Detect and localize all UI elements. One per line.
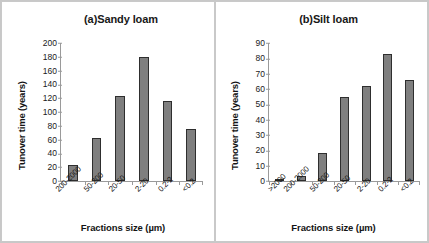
- y-tick-label: 70: [239, 69, 265, 78]
- bar-cell: [85, 43, 109, 181]
- panel-b-bars: [269, 43, 420, 181]
- y-tick-label: 10: [239, 161, 265, 170]
- bar-cell: [269, 43, 291, 181]
- x-label-cell: 0.2-2: [156, 181, 180, 215]
- y-tick-label: 0: [239, 177, 265, 186]
- panel-a-y-axis-title: Tunover time (years): [16, 81, 27, 170]
- chart-panel-b: (b)Silt loam Tunover time (years) 010203…: [215, 1, 428, 242]
- panel-a-x-axis-title: Fractions size (µm): [2, 222, 214, 233]
- bar-cell: [355, 43, 377, 181]
- panel-a-bars: [61, 43, 203, 181]
- y-tick-label: 140: [31, 80, 57, 89]
- bar[interactable]: [340, 97, 349, 181]
- x-label-cell: 2-20: [355, 181, 377, 215]
- bar[interactable]: [383, 54, 392, 181]
- x-label-cell: <0.2: [398, 181, 420, 215]
- panel-b-x-axis-title: Fractions size (µm): [216, 222, 427, 233]
- bar[interactable]: [405, 80, 414, 181]
- bar[interactable]: [362, 86, 371, 181]
- panel-a-title: (a)Sandy loam: [2, 13, 214, 25]
- panel-b-plot-area: 0102030405060708090 >2000200-200050-2002…: [268, 43, 420, 182]
- bar-cell: [291, 43, 313, 181]
- bar-cell: [61, 43, 85, 181]
- bar-cell: [312, 43, 334, 181]
- x-label-cell: 0.2-2: [377, 181, 399, 215]
- panel-b-y-axis-title: Tunover time (years): [229, 81, 240, 170]
- bar[interactable]: [139, 57, 149, 181]
- x-label-cell: 2-20: [132, 181, 156, 215]
- chart-panel-a: (a)Sandy loam Tunover time (years) 02040…: [1, 1, 215, 242]
- y-tick-label: 0: [31, 177, 57, 186]
- bar-cell: [179, 43, 203, 181]
- bar-cell: [132, 43, 156, 181]
- x-label-cell: 200-2000: [61, 181, 85, 215]
- x-label-cell: 50-200: [312, 181, 334, 215]
- panel-a-plot-area: 020406080100120140160180200 200-200050-2…: [60, 43, 203, 182]
- y-tick-label: 40: [31, 149, 57, 158]
- bar[interactable]: [186, 129, 196, 181]
- panel-a-x-tick-labels: 200-200050-20020-502-200.2-2<0.2: [61, 181, 203, 215]
- panel-b-x-tick-labels: >2000200-200050-20020-502-200.2-2<0.2: [269, 181, 420, 215]
- bar-cell: [108, 43, 132, 181]
- x-label-cell: 20-50: [108, 181, 132, 215]
- y-tick-label: 40: [239, 115, 265, 124]
- y-tick-label: 180: [31, 53, 57, 62]
- x-label-cell: 20-50: [334, 181, 356, 215]
- y-tick-label: 20: [31, 163, 57, 172]
- y-tick-label: 80: [239, 54, 265, 63]
- bar-cell: [156, 43, 180, 181]
- y-tick-label: 100: [31, 108, 57, 117]
- panel-b-title: (b)Silt loam: [216, 13, 427, 25]
- bar-cell: [377, 43, 399, 181]
- y-tick-label: 200: [31, 39, 57, 48]
- bar-cell: [398, 43, 420, 181]
- y-tick-label: 20: [239, 146, 265, 155]
- y-tick-label: 50: [239, 100, 265, 109]
- x-label-cell: <0.2: [179, 181, 203, 215]
- y-tick-label: 160: [31, 66, 57, 75]
- bar[interactable]: [115, 96, 125, 181]
- bar-cell: [334, 43, 356, 181]
- y-tick-label: 60: [31, 135, 57, 144]
- y-tick-label: 30: [239, 131, 265, 140]
- x-label-cell: 50-200: [85, 181, 109, 215]
- y-tick-label: 120: [31, 94, 57, 103]
- bar[interactable]: [163, 101, 173, 181]
- y-tick-label: 90: [239, 39, 265, 48]
- figure-container: (a)Sandy loam Tunover time (years) 02040…: [0, 0, 429, 243]
- y-tick-label: 60: [239, 85, 265, 94]
- y-tick-label: 80: [31, 122, 57, 131]
